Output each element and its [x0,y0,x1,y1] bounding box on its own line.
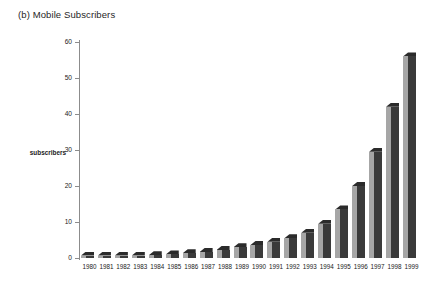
bar-top-face [217,246,230,250]
bar-front-face [205,252,213,258]
bar-front-face [306,233,314,258]
bar [301,229,314,258]
bar-front-face [188,253,196,258]
bar-top-face [166,250,179,254]
bar-front-face [171,254,179,258]
bar [200,248,213,258]
bar [352,182,365,258]
bar-front-face [391,107,399,258]
plot-area [79,42,418,258]
bar-front-face [289,238,297,258]
y-tick-label: 30 [65,146,72,154]
bar-top-face [318,220,331,224]
bar [81,252,94,259]
bar [267,238,280,258]
bar-top-face [132,252,145,256]
bar [217,246,230,258]
bar-top-face [335,205,348,209]
bar [284,234,297,258]
bar-front-face [154,255,162,258]
bar [183,249,196,258]
bar-front-face [222,250,230,258]
bar-front-face [357,186,365,258]
bar-top-face [200,248,213,252]
bar-front-face [255,245,263,258]
bar-front-face [103,256,111,259]
bar [149,251,162,258]
bar-top-face [234,243,247,247]
bar [234,243,247,258]
y-tick-mark [75,258,79,259]
bar [335,205,348,258]
bar [166,250,179,258]
bar-top-face [81,252,94,256]
bar-top-face [301,229,314,233]
bar-top-face [115,252,128,256]
bar-front-face [272,242,280,258]
y-tick-label: 50 [65,74,72,82]
bar-front-face [239,247,247,258]
bar [318,220,331,258]
bar [386,103,399,258]
bar-front-face [340,209,348,258]
bar-top-face [149,251,162,255]
chart-title: (b) Mobile Subscribers [18,9,115,20]
bar-front-face [86,256,94,259]
bar-top-face [183,249,196,253]
bar-top-face [352,182,365,186]
bar-top-face [250,241,263,245]
bar-top-face [403,52,416,56]
x-tick-label: 1999 [401,263,423,270]
bar [250,241,263,258]
bar [369,148,382,258]
bar-top-face [98,252,111,256]
bar-front-face [120,256,128,259]
bar [403,52,416,258]
chart-figure: (b) Mobile Subscribers subscribers 01020… [0,0,438,291]
bar [98,252,111,259]
y-tick-label: 60 [65,38,72,46]
y-tick-label: 0 [68,254,72,262]
bar-front-face [374,152,382,258]
bar-top-face [267,238,280,242]
y-tick-label: 40 [65,110,72,118]
bar-top-face [386,103,399,107]
bar [115,252,128,259]
y-tick-label: 10 [65,218,72,226]
bar-front-face [137,256,145,259]
bar-front-face [408,56,416,258]
bar-top-face [284,234,297,238]
bar [132,252,145,259]
bar-top-face [369,148,382,152]
y-axis-label: subscribers [8,149,66,156]
bar-front-face [323,224,331,258]
y-tick-label: 20 [65,182,72,190]
